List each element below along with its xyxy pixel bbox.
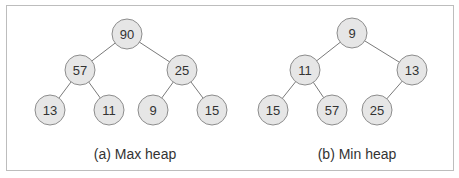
svg-text:15: 15 [266,103,280,118]
max-heap-tree: 9057251311915 [35,19,227,125]
tree-node: 13 [397,55,427,85]
tree-node: 25 [362,95,392,125]
svg-text:13: 13 [43,103,57,118]
tree-node: 13 [35,95,65,125]
svg-text:11: 11 [102,103,116,118]
tree-node: 9 [337,18,367,48]
tree-node: 57 [317,95,347,125]
tree-node: 15 [258,95,288,125]
svg-text:25: 25 [175,63,189,78]
tree-node: 11 [290,55,320,85]
svg-text:13: 13 [405,63,419,78]
svg-text:15: 15 [205,103,219,118]
tree-node: 11 [94,95,124,125]
svg-text:90: 90 [120,27,134,42]
svg-text:11: 11 [298,63,312,78]
svg-text:57: 57 [325,103,339,118]
tree-node: 9 [138,95,168,125]
min-heap-tree: 91113155725 [258,18,427,125]
caption-max-heap: (a) Max heap [55,146,215,162]
tree-node: 90 [112,19,142,49]
svg-text:9: 9 [149,103,156,118]
caption-min-heap: (b) Min heap [277,146,437,162]
svg-text:9: 9 [348,26,355,41]
svg-text:57: 57 [73,63,87,78]
tree-node: 15 [197,95,227,125]
tree-node: 25 [167,55,197,85]
svg-text:25: 25 [370,103,384,118]
tree-node: 57 [65,55,95,85]
